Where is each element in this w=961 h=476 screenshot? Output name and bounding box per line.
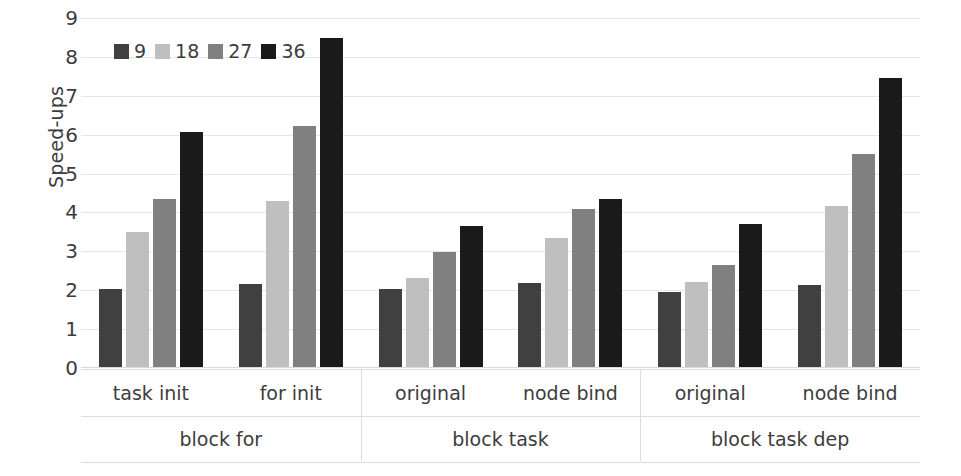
x-axis-category-label: node bind (501, 370, 641, 416)
y-tick-label: 1 (65, 319, 78, 339)
bar (433, 252, 456, 367)
x-axis-category-label: original (361, 370, 501, 416)
bar (879, 78, 902, 367)
bar (658, 292, 681, 367)
bar (266, 201, 289, 367)
legend-item: 18 (155, 42, 199, 61)
bar (825, 206, 848, 367)
plot-area (81, 18, 920, 368)
bar (545, 238, 568, 368)
bar (685, 282, 708, 367)
y-tick-label: 6 (65, 125, 78, 145)
bar (239, 284, 262, 367)
legend-swatch-icon (114, 44, 129, 59)
bar (460, 226, 483, 367)
legend-label: 18 (175, 42, 199, 61)
x-axis-category-label: for init (221, 370, 361, 416)
y-tick-label: 8 (65, 47, 78, 67)
bar (739, 224, 762, 367)
bar (572, 209, 595, 367)
legend-item: 27 (208, 42, 252, 61)
y-axis-tick-labels: 0123456789 (52, 0, 78, 476)
legend-label: 36 (281, 42, 305, 61)
y-tick-label: 0 (65, 358, 78, 378)
x-axis-group-label: block task (361, 417, 641, 461)
bar (406, 278, 429, 367)
legend-label: 9 (134, 42, 146, 61)
y-tick-label: 4 (65, 202, 78, 222)
bar-chart: Speed-ups 0123456789 9182736 task initfo… (0, 0, 961, 476)
bar (320, 38, 343, 367)
y-tick-label: 9 (65, 8, 78, 28)
y-tick-label: 3 (65, 241, 78, 261)
y-tick-label: 7 (65, 86, 78, 106)
bar (99, 289, 122, 367)
bar (293, 126, 316, 368)
bars-layer (81, 18, 920, 368)
bar (180, 132, 203, 367)
category-separator (361, 370, 362, 416)
bar (518, 283, 541, 367)
legend-item: 9 (114, 42, 146, 61)
x-axis-category-label: task init (81, 370, 221, 416)
bar (599, 199, 622, 367)
x-axis-group-label: block task dep (640, 417, 920, 461)
bar (712, 265, 735, 367)
bar (379, 289, 402, 367)
legend-swatch-icon (208, 44, 223, 59)
x-axis-category-label: node bind (780, 370, 920, 416)
x-axis-category-label: original (640, 370, 780, 416)
bar (153, 199, 176, 367)
legend: 9182736 (114, 42, 306, 61)
legend-swatch-icon (155, 44, 170, 59)
bar (852, 154, 875, 367)
x-axis-category-band: task initfor initoriginalnode bindorigin… (81, 369, 920, 417)
y-tick-label: 2 (65, 280, 78, 300)
axis-baseline (81, 367, 920, 368)
legend-label: 27 (228, 42, 252, 61)
legend-swatch-icon (261, 44, 276, 59)
bar (126, 232, 149, 367)
category-separator (640, 370, 641, 416)
legend-item: 36 (261, 42, 305, 61)
x-axis-group-band: block forblock taskblock task dep (81, 417, 920, 463)
bar (798, 285, 821, 367)
x-axis-group-label: block for (81, 417, 361, 461)
y-tick-label: 5 (65, 164, 78, 184)
